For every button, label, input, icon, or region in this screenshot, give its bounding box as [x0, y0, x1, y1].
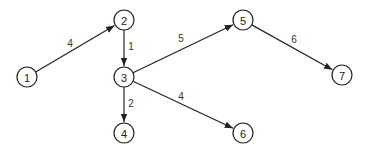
edge-weight-label: 5 [178, 33, 184, 44]
edge-3-5: 5 [133, 25, 233, 73]
edge-1-2: 4 [36, 26, 115, 72]
edge-3-6: 4 [133, 81, 233, 128]
node-label: 7 [339, 70, 345, 82]
edge-weight-label: 1 [128, 41, 134, 52]
nodes: 1234567 [17, 10, 352, 143]
node-6: 6 [233, 123, 253, 143]
edge-weight-label: 4 [67, 38, 73, 49]
edge-arrow [133, 81, 233, 128]
node-4: 4 [114, 123, 134, 143]
node-2: 2 [114, 10, 134, 30]
node-label: 4 [121, 128, 127, 140]
node-3: 3 [114, 67, 134, 87]
edge-2-3: 1 [124, 30, 134, 66]
edge-weight-label: 2 [128, 98, 134, 109]
node-1: 1 [17, 67, 37, 87]
edge-arrow [252, 25, 333, 70]
node-label: 3 [121, 72, 127, 84]
edge-weight-label: 6 [291, 34, 297, 45]
node-label: 5 [240, 15, 246, 27]
edge-arrow [36, 26, 115, 72]
node-label: 2 [121, 15, 127, 27]
node-5: 5 [233, 10, 253, 30]
edges: 415246 [36, 25, 333, 129]
node-label: 1 [24, 72, 30, 84]
edge-3-4: 2 [124, 87, 134, 122]
node-7: 7 [332, 65, 352, 85]
edge-weight-label: 4 [178, 91, 184, 102]
node-label: 6 [240, 128, 246, 140]
edge-5-7: 6 [252, 25, 333, 70]
graph-diagram: 415246 1234567 [0, 0, 369, 153]
